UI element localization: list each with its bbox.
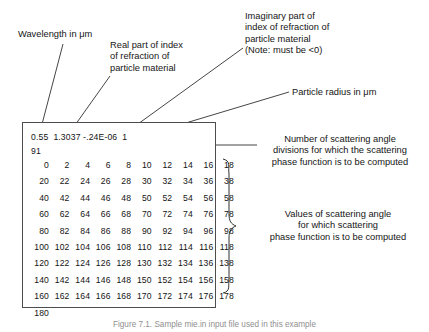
- angle-value: 176: [195, 291, 213, 301]
- angle-value: 42: [52, 193, 70, 203]
- angle-value: 2: [52, 160, 70, 170]
- angle-value: 66: [93, 209, 111, 219]
- angle-value: 64: [72, 209, 90, 219]
- input-file-box: 0.55 1.3037 -.24E-06 1 91 0 2 4 6 8 10 1…: [22, 122, 216, 308]
- angle-value: 38: [216, 176, 234, 186]
- angle-row: 80 82 84 86 88 90 92 94 96 98: [31, 226, 234, 236]
- angle-value: 154: [175, 275, 193, 285]
- angle-value: 76: [195, 209, 213, 219]
- angle-value: 82: [52, 226, 70, 236]
- angle-value: 72: [154, 209, 172, 219]
- angle-value: 86: [93, 226, 111, 236]
- angle-value: 16: [195, 160, 213, 170]
- angle-value: 112: [154, 242, 172, 252]
- angle-value: 142: [52, 275, 70, 285]
- angle-value: 170: [134, 291, 152, 301]
- leader-line-real-index: [73, 76, 110, 128]
- angle-value: 4: [72, 160, 90, 170]
- angle-value: 124: [72, 258, 90, 268]
- angle-value: 156: [195, 275, 213, 285]
- angle-value: 158: [216, 275, 234, 285]
- angle-value: 172: [154, 291, 172, 301]
- angle-value: 52: [154, 193, 172, 203]
- annotation-imaginary-index: Imaginary part of index of refraction of…: [245, 11, 329, 57]
- angle-value: 94: [175, 226, 193, 236]
- angle-value: 34: [175, 176, 193, 186]
- angle-value: 98: [216, 226, 234, 236]
- angle-row: 20 22 24 26 28 30 32 34 36 38: [31, 176, 234, 186]
- angle-value: 166: [93, 291, 111, 301]
- angle-value: 162: [52, 291, 70, 301]
- angle-value: 126: [93, 258, 111, 268]
- angle-value: 20: [31, 176, 49, 186]
- angle-value: 114: [175, 242, 193, 252]
- angle-value: 80: [31, 226, 49, 236]
- angle-value: 62: [52, 209, 70, 219]
- annotation-angle-values: Values of scattering angle for which sca…: [248, 209, 428, 243]
- angle-value: 168: [113, 291, 131, 301]
- angle-value: 44: [72, 193, 90, 203]
- angle-row: 180: [31, 308, 49, 318]
- figure-container: Wavelength in μm Real part of index of r…: [0, 0, 429, 332]
- angle-value: 152: [154, 275, 172, 285]
- angle-value: 46: [93, 193, 111, 203]
- angle-value: 36: [195, 176, 213, 186]
- angle-value: 58: [216, 193, 234, 203]
- angle-value: 96: [195, 226, 213, 236]
- angle-value: 0: [31, 160, 49, 170]
- angle-row: 120 122 124 126 128 130 132 134 136 138: [31, 258, 234, 268]
- angle-value: 178: [216, 291, 234, 301]
- angle-value: 10: [134, 160, 152, 170]
- angle-value: 140: [31, 275, 49, 285]
- angle-value: 56: [195, 193, 213, 203]
- angle-value: 104: [72, 242, 90, 252]
- angle-value: 18: [216, 160, 234, 170]
- angle-value: 128: [113, 258, 131, 268]
- angle-value: 90: [134, 226, 152, 236]
- angle-value: 132: [154, 258, 172, 268]
- angle-row: 100 102 104 106 108 110 112 114 116 118: [31, 242, 234, 252]
- angle-value: 54: [175, 193, 193, 203]
- input-header-line: 0.55 1.3037 -.24E-06 1: [31, 132, 127, 142]
- angle-value: 50: [134, 193, 152, 203]
- angle-value: 12: [154, 160, 172, 170]
- angle-value: 40: [31, 193, 49, 203]
- angle-row: 140 142 144 146 148 150 152 154 156 158: [31, 275, 234, 285]
- angle-value: 48: [113, 193, 131, 203]
- angle-value: 92: [154, 226, 172, 236]
- angle-value: 106: [93, 242, 111, 252]
- angle-value: 74: [175, 209, 193, 219]
- angle-value: 26: [93, 176, 111, 186]
- angle-value: 134: [175, 258, 193, 268]
- angle-value: 28: [113, 176, 131, 186]
- angle-value: 122: [52, 258, 70, 268]
- angle-value: 22: [52, 176, 70, 186]
- angle-value: 136: [195, 258, 213, 268]
- angle-value: 150: [134, 275, 152, 285]
- angle-value: 78: [216, 209, 234, 219]
- angle-value: 30: [134, 176, 152, 186]
- angle-row: 40 42 44 46 48 50 52 54 56 58: [31, 193, 234, 203]
- angle-value: 116: [195, 242, 213, 252]
- leader-line-wavelength: [41, 44, 63, 128]
- angle-value: 60: [31, 209, 49, 219]
- angle-value: 84: [72, 226, 90, 236]
- angle-value: 14: [175, 160, 193, 170]
- annotation-num-divisions: Number of scattering angle divisions for…: [252, 134, 428, 168]
- angle-value: 88: [113, 226, 131, 236]
- angle-value: 146: [93, 275, 111, 285]
- input-count-line: 91: [31, 146, 41, 156]
- angle-value: 120: [31, 258, 49, 268]
- angle-value: 6: [93, 160, 111, 170]
- angle-value: 70: [134, 209, 152, 219]
- angle-value: 174: [175, 291, 193, 301]
- angle-value: 110: [134, 242, 152, 252]
- angle-value: 68: [113, 209, 131, 219]
- angle-value: 24: [72, 176, 90, 186]
- angle-row: 160 162 164 166 168 170 172 174 176 178: [31, 291, 234, 301]
- angle-value: 144: [72, 275, 90, 285]
- angle-value: 138: [216, 258, 234, 268]
- angle-value: 180: [31, 308, 49, 318]
- angle-value: 164: [72, 291, 90, 301]
- angle-value: 118: [216, 242, 234, 252]
